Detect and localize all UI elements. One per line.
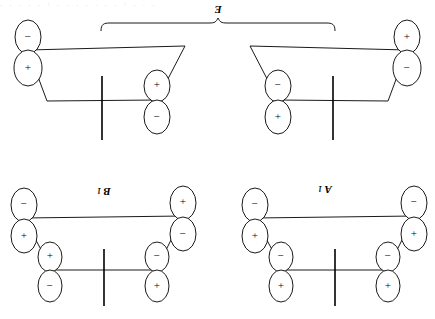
lobe-sign: + [385, 280, 391, 292]
lobe-sign: − [47, 280, 53, 292]
b1-p-orbital-inner-left: + − [38, 242, 62, 302]
b1-p-orbital-outer-left: − + [11, 188, 37, 253]
b1-symmetry-label: B 1 [97, 186, 111, 198]
b1-p-orbital-inner-right: − + [145, 242, 169, 302]
panel-e-left: − + + − [14, 20, 185, 140]
a1-letter: A [324, 184, 332, 196]
e-right-bond-top [250, 46, 407, 50]
a1-bond-top [255, 216, 414, 218]
lobe-sign: − [404, 62, 410, 74]
a1-symmetry-label: A 1 [318, 184, 332, 196]
orbital-symmetry-figure: E − + + − + [0, 0, 435, 319]
e-right-p-orbital-right: + − [393, 20, 421, 86]
lobe-sign: − [275, 79, 281, 91]
a1-subscript: 1 [318, 184, 322, 193]
lobe-sign: − [154, 111, 160, 123]
lobe-sign: − [21, 198, 27, 210]
lobe-sign: − [180, 228, 186, 240]
lobe-sign: + [275, 111, 281, 123]
lobe-sign: − [154, 250, 160, 262]
lobe-sign: − [25, 31, 31, 43]
a1-p-orbital-outer-left: − + [242, 188, 268, 253]
lobe-sign: + [47, 250, 53, 262]
lobe-sign: + [154, 280, 160, 292]
lobe-sign: + [180, 196, 186, 208]
b1-bond-top [24, 216, 183, 218]
e-left-p-orbital-right: + − [144, 70, 170, 134]
a1-p-orbital-outer-right: − + [401, 186, 427, 251]
lobe-sign: + [252, 230, 258, 242]
e-left-p-orbital-left: − + [14, 20, 42, 86]
lobe-sign: + [278, 280, 284, 292]
lobe-sign: + [21, 230, 27, 242]
lobe-sign: + [25, 62, 31, 74]
lobe-sign: − [411, 196, 417, 208]
e-right-p-orbital-left: − + [265, 70, 291, 134]
lobe-sign: − [252, 198, 258, 210]
panel-b1: B 1 − + + − + − [11, 186, 196, 306]
lobe-sign: + [404, 31, 410, 43]
lobe-sign: − [278, 250, 284, 262]
e-group-brace [101, 18, 335, 31]
lobe-sign: + [411, 228, 417, 240]
a1-p-orbital-inner-right: − + [376, 242, 400, 302]
b1-p-orbital-outer-right: + − [170, 186, 196, 251]
lobe-sign: − [385, 250, 391, 262]
b1-subscript: 1 [97, 186, 101, 195]
panel-e-right: + − − + [250, 20, 421, 140]
e-symmetry-label: E [214, 4, 222, 16]
panel-a1: A 1 − + − + − + − + [242, 184, 427, 306]
a1-p-orbital-inner-left: − + [269, 242, 293, 302]
b1-letter: B [103, 186, 111, 198]
lobe-sign: + [154, 79, 160, 91]
e-left-bond-top [28, 46, 185, 50]
